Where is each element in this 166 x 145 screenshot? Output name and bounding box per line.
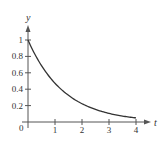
x-tick-label: 1 [53, 125, 58, 135]
series [28, 40, 136, 118]
axes [22, 25, 151, 128]
y-tick-label: 0.2 [12, 101, 23, 111]
series-line [28, 40, 136, 118]
y-axis-label: y [25, 12, 31, 23]
x-tick-label: 4 [134, 125, 139, 135]
chart: 12340.20.40.60.81 t y 0 [0, 0, 166, 145]
y-tick-label: 1 [19, 35, 24, 45]
x-axis-arrow-icon [144, 120, 151, 125]
y-tick-label: 0.4 [12, 84, 24, 94]
x-tick-label: 2 [80, 125, 85, 135]
y-axis-arrow-icon [26, 25, 31, 32]
x-axis-label: t [154, 117, 157, 128]
x-tick-label: 3 [107, 125, 112, 135]
y-tick-label: 0.6 [12, 68, 24, 78]
y-tick-label: 0.8 [12, 51, 24, 61]
origin-label: 0 [19, 123, 24, 133]
ticks: 12340.20.40.60.81 [12, 35, 139, 135]
